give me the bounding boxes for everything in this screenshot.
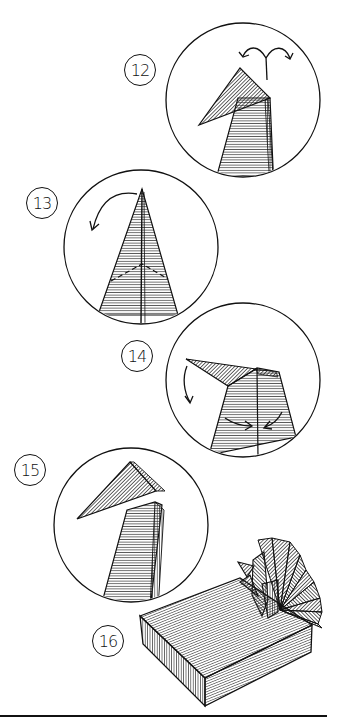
step-16-illustration (140, 538, 322, 706)
step-number-12: 12 (124, 54, 156, 86)
step-number-14: 14 (121, 340, 153, 372)
step-number-16: 16 (92, 625, 124, 657)
step-number-text: 13 (33, 194, 51, 213)
step-number-15: 15 (14, 454, 46, 486)
fold-down-arrow-icon (184, 366, 193, 403)
step-15-illustration (54, 448, 208, 610)
step-13-illustration (64, 170, 218, 325)
bottom-divider (0, 715, 327, 717)
step-14-illustration (166, 303, 320, 458)
diagram-canvas (0, 0, 344, 722)
step-12-illustration (166, 23, 320, 190)
step-number-text: 16 (99, 632, 117, 651)
step-number-text: 14 (128, 347, 146, 366)
step-number-13: 13 (26, 187, 58, 219)
step-number-text: 15 (21, 461, 39, 480)
step-number-text: 12 (131, 61, 149, 80)
